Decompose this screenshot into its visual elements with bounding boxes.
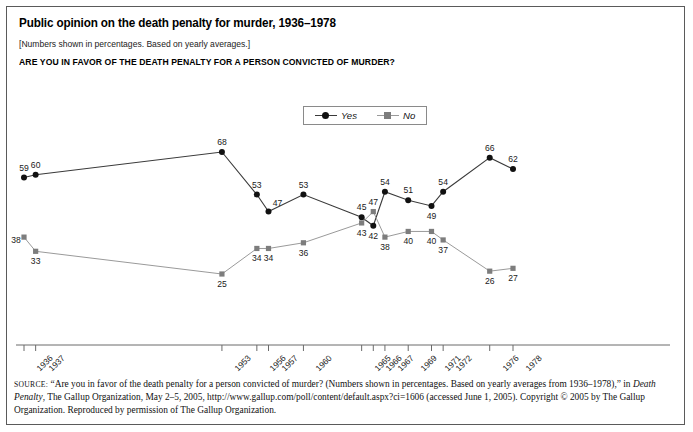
data-label: 40 xyxy=(403,236,413,246)
data-label: 43 xyxy=(357,228,367,238)
data-label: 40 xyxy=(427,236,437,246)
data-label: 53 xyxy=(252,180,262,190)
data-label: 66 xyxy=(485,143,495,153)
data-label: 49 xyxy=(427,211,437,221)
data-label: 25 xyxy=(217,279,227,289)
data-label: 36 xyxy=(299,248,309,258)
data-label: 59 xyxy=(19,163,29,173)
data-label: 26 xyxy=(485,276,495,286)
data-label: 42 xyxy=(369,231,379,241)
data-label: 53 xyxy=(299,180,309,190)
data-label: 34 xyxy=(264,253,274,263)
data-label: 51 xyxy=(403,185,413,195)
source-text-1: “Are you in favor of the death penalty f… xyxy=(51,379,633,389)
data-label: 47 xyxy=(273,198,283,208)
x-tick-label: 1960 xyxy=(314,353,334,373)
data-label: 60 xyxy=(31,160,41,170)
data-label: 34 xyxy=(252,253,262,263)
x-tick-label: 1976 xyxy=(500,353,520,373)
source-label: SOURCE: xyxy=(14,380,48,389)
x-tick-label: 1978 xyxy=(523,353,543,373)
data-label: 45 xyxy=(357,202,367,212)
data-label: 54 xyxy=(380,177,390,187)
data-label: 37 xyxy=(438,245,448,255)
data-label: 47 xyxy=(369,197,379,207)
source-note: SOURCE: “Are you in favor of the death p… xyxy=(14,378,662,416)
data-label: 54 xyxy=(438,177,448,187)
source-text-2: , The Gallup Organization, May 2–5, 2005… xyxy=(14,392,645,414)
chart-labels-layer: 1936193719531956195719601965196619671969… xyxy=(0,0,693,432)
x-tick-label: 1953 xyxy=(232,353,252,373)
data-label: 62 xyxy=(508,154,518,164)
data-label: 38 xyxy=(380,242,390,252)
data-label: 38 xyxy=(11,235,21,245)
data-label: 68 xyxy=(217,137,227,147)
x-tick-label: 1969 xyxy=(419,353,439,373)
data-label: 33 xyxy=(31,256,41,266)
data-label: 27 xyxy=(508,273,518,283)
